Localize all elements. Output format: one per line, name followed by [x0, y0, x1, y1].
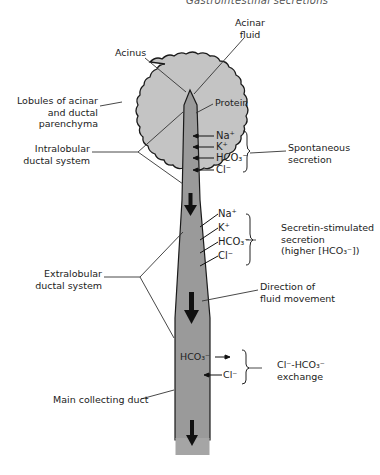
label-lobules: Lobules of acinar and ductal parenchyma — [10, 95, 98, 130]
label-spontaneous: Spontaneous secretion — [288, 142, 350, 165]
ion-hco3-spontaneous: HCO₃⁻ — [216, 152, 248, 164]
ion-cl-secretin: Cl⁻ — [218, 250, 233, 262]
braces — [242, 131, 253, 384]
label-protein: Protein — [215, 97, 248, 109]
ion-cl-spontaneous: Cl⁻ — [216, 164, 231, 176]
label-secretin: Secretin-stimulated secretion (higher [H… — [281, 222, 374, 257]
label-extralobular: Extralobular ductal system — [30, 268, 102, 291]
label-acinus: Acinus — [115, 47, 146, 59]
ion-cl-exchange: Cl⁻ — [223, 369, 237, 381]
ion-k-secretin: K⁺ — [218, 222, 230, 234]
label-exchange: Cl⁻-HCO₃⁻ exchange — [277, 359, 325, 382]
label-direction: Direction of fluid movement — [260, 281, 335, 304]
ion-hco3-secretin: HCO₃⁻ — [218, 236, 250, 248]
label-intralobular: Intralobular ductal system — [20, 143, 90, 166]
ion-hco3-exchange: HCO₃⁻ — [180, 351, 210, 363]
label-acinar-fluid: Acinar fluid — [235, 17, 265, 40]
label-main-duct: Main collecting duct — [53, 394, 149, 406]
ion-na-secretin: Na⁺ — [218, 208, 237, 220]
brace-exchange — [242, 350, 249, 384]
